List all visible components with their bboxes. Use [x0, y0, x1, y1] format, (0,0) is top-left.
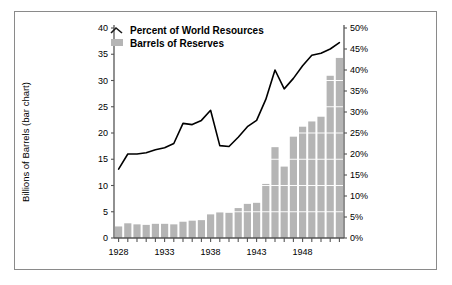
y-tick-label: 15 — [98, 154, 108, 164]
bar — [179, 222, 186, 238]
y-tick-label: 35 — [98, 49, 108, 59]
y2-tick-label: 45% — [350, 44, 368, 54]
bar — [161, 224, 168, 238]
chart-legend: Percent of World Resources Barrels of Re… — [111, 25, 264, 49]
x-tick-label: 1948 — [293, 247, 313, 257]
y2-tick-label: 30% — [350, 107, 368, 117]
bar — [207, 214, 214, 238]
y2-tick-label: 10% — [350, 191, 368, 201]
y-tick-label: 30 — [98, 76, 108, 86]
y-tick-label: 10 — [98, 181, 108, 191]
y-tick-label: 20 — [98, 128, 108, 138]
bar — [290, 137, 297, 238]
chart-frame: 0510152025303540 0%5%10%15%20%25%30%35%4… — [14, 11, 437, 270]
bar — [198, 220, 205, 238]
y-tick-label: 5 — [103, 207, 108, 217]
bar — [262, 184, 269, 238]
x-tick-label: 1943 — [247, 247, 267, 257]
bar — [235, 208, 242, 238]
legend-label-barrels-of-reserves: Barrels of Reserves — [130, 38, 224, 49]
bar-series — [114, 28, 344, 238]
x-tick-label: 1938 — [201, 247, 221, 257]
y2-tick-label: 35% — [350, 86, 368, 96]
y2-tick-label: 25% — [350, 128, 368, 138]
chart-canvas: 0510152025303540 0%5%10%15%20%25%30%35%4… — [15, 12, 438, 271]
y2-tick-label: 50% — [350, 23, 368, 33]
y2-tick-label: 40% — [350, 65, 368, 75]
bar — [143, 225, 150, 238]
bar — [299, 127, 306, 238]
bar — [308, 121, 315, 238]
bar — [225, 213, 232, 238]
bar — [152, 224, 159, 238]
legend-line-marker — [111, 28, 122, 33]
y-axis-tick-labels: 0510152025303540 — [98, 23, 108, 243]
bar — [317, 117, 324, 238]
bar — [115, 226, 122, 238]
bar — [216, 212, 223, 238]
y-tick-label: 25 — [98, 102, 108, 112]
y2-tick-label: 5% — [350, 212, 363, 222]
bar — [133, 224, 140, 238]
bar — [336, 58, 343, 238]
bar — [189, 221, 196, 238]
bar — [271, 147, 278, 238]
bar — [253, 203, 260, 238]
y-axis-title: Billions of Barrels (bar chart) — [20, 82, 31, 202]
y2-tick-label: 15% — [350, 170, 368, 180]
x-tick-label: 1933 — [155, 247, 175, 257]
line-series — [119, 43, 340, 169]
x-tick-label: 1928 — [109, 247, 129, 257]
bar — [327, 76, 334, 238]
y-tick-label: 40 — [98, 23, 108, 33]
y2-tick-label: 0% — [350, 233, 363, 243]
y2-axis-tick-labels: 0%5%10%15%20%25%30%35%40%45%50% — [350, 23, 368, 243]
bar — [170, 224, 177, 238]
legend-label-percent-of-world-resources: Percent of World Resources — [130, 25, 264, 36]
legend-swatch-marker — [111, 39, 123, 46]
x-axis-tick-labels: 19281933193819431948 — [109, 247, 313, 257]
bar — [124, 223, 131, 238]
y2-tick-label: 20% — [350, 149, 368, 159]
y-tick-label: 0 — [103, 233, 108, 243]
bar — [244, 204, 251, 238]
bar — [281, 167, 288, 238]
